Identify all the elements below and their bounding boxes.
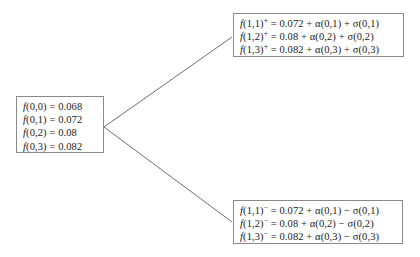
edge-up (104, 37, 232, 127)
root-equation-line: f(0,2) = 0.08 (23, 126, 97, 139)
root-equation-line: f(0,1) = 0.072 (23, 113, 97, 126)
edge-down (104, 127, 232, 222)
down-equation-line: f(1,3)− = 0.082 + α(0,3) − σ(0,3) (240, 230, 396, 243)
down-node: f(1,1)− = 0.072 + α(0,1) − σ(0,1) f(1,2)… (233, 200, 403, 244)
binomial-tree-diagram: f(0,0) = 0.068 f(0,1) = 0.072 f(0,2) = 0… (0, 0, 420, 257)
root-equation-line: f(0,0) = 0.068 (23, 100, 97, 113)
up-equation-line: f(1,3)+ = 0.082 + α(0,3) + σ(0,3) (240, 43, 397, 56)
root-equation-line: f(0,3) = 0.082 (23, 140, 97, 153)
up-node: f(1,1)+ = 0.072 + α(0,1) + σ(0,1) f(1,2)… (233, 13, 404, 57)
root-node: f(0,0) = 0.068 f(0,1) = 0.072 f(0,2) = 0… (16, 96, 104, 153)
